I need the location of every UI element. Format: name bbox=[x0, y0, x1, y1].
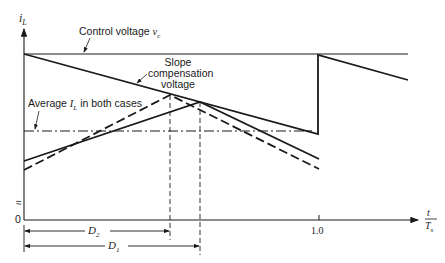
origin-label: 0 bbox=[15, 214, 21, 225]
x-tick-label-1: 1.0 bbox=[311, 226, 324, 236]
slope-comp-leader bbox=[137, 74, 147, 83]
control-voltage-leader bbox=[84, 38, 90, 52]
slope-compensation-label: Slope compensation voltage bbox=[148, 57, 208, 90]
d2-label: D2 bbox=[88, 225, 99, 239]
d1-label: D1 bbox=[108, 240, 119, 254]
average-current-label: Average IL in both cases bbox=[28, 98, 142, 112]
axis-break-symbol: ≈ bbox=[16, 198, 22, 208]
control-voltage-label: Control voltage vc bbox=[79, 26, 160, 40]
y-axis-label: iL bbox=[19, 12, 27, 27]
x-axis-label-numerator: t bbox=[427, 208, 430, 218]
average-leader bbox=[35, 111, 39, 129]
slope-compensation-line bbox=[24, 54, 408, 134]
slope-compensation-diagram bbox=[0, 0, 445, 263]
x-axis-label-denominator: Ts bbox=[425, 221, 433, 234]
